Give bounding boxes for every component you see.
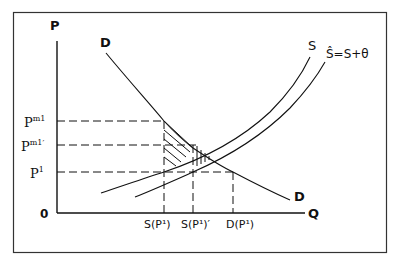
demand-label-top: D bbox=[100, 35, 111, 50]
quantity-axis-label: Q bbox=[308, 206, 319, 221]
supply-curve bbox=[101, 57, 310, 193]
demand-label-bottom: D bbox=[294, 189, 305, 204]
supply-demand-diagram: P Q 0 D D S Ŝ=S+θ Pm1 Pm1′ P1 S(P¹) S(P¹… bbox=[0, 0, 398, 267]
p1-label: P1 bbox=[30, 165, 44, 181]
d-p1-label: D(P¹) bbox=[226, 218, 254, 231]
demand-curve bbox=[106, 53, 290, 200]
s-p1-label: S(P¹) bbox=[144, 218, 171, 231]
hatched-area-left bbox=[164, 121, 193, 166]
supply-label: S bbox=[308, 38, 316, 53]
origin-label: 0 bbox=[40, 207, 48, 221]
pm1-label: Pm1 bbox=[24, 114, 45, 130]
shifted-supply-label: Ŝ=S+θ bbox=[326, 46, 369, 61]
s-p1-prime-label: S(P¹)′ bbox=[181, 218, 211, 231]
pm1-prime-label: Pm1′ bbox=[21, 138, 44, 154]
price-axis-label: P bbox=[50, 18, 60, 33]
